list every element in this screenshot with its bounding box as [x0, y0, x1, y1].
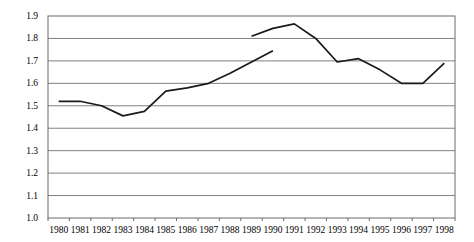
x-tick-label: 1993 — [328, 225, 347, 235]
x-tick-label: 1984 — [135, 225, 154, 235]
x-tick-label: 1996 — [392, 225, 411, 235]
x-tick-label: 1989 — [242, 225, 261, 235]
x-tick-label: 1980 — [49, 225, 68, 235]
x-tick-label: 1991 — [285, 225, 304, 235]
x-tick-label: 1988 — [221, 225, 240, 235]
x-tick-label: 1990 — [263, 225, 282, 235]
x-axis: 1980198119821983198419851986198719881989… — [0, 0, 474, 242]
x-tick-label: 1994 — [349, 225, 368, 235]
x-tick-label: 1995 — [371, 225, 390, 235]
x-tick-label: 1985 — [156, 225, 175, 235]
x-tick-label: 1992 — [306, 225, 325, 235]
x-tick-label: 1987 — [199, 225, 218, 235]
line-chart: 1.01.11.21.31.41.51.61.71.81.9 198019811… — [0, 0, 474, 242]
x-tick-label: 1997 — [413, 225, 432, 235]
x-tick-label: 1998 — [435, 225, 454, 235]
x-tick-label: 1986 — [178, 225, 197, 235]
x-tick-label: 1982 — [92, 225, 111, 235]
x-tick-label: 1983 — [113, 225, 132, 235]
x-tick-label: 1981 — [71, 225, 90, 235]
